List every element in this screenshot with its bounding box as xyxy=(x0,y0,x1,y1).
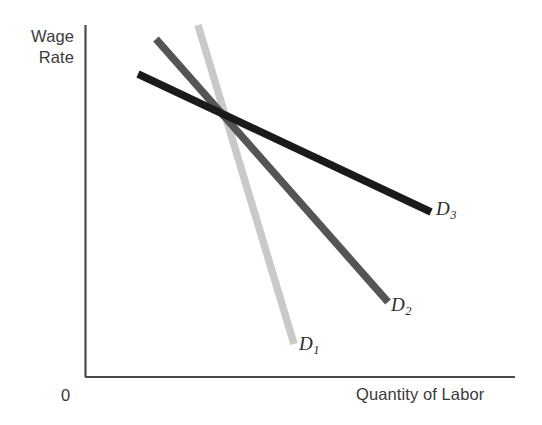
demand-curves-group xyxy=(138,25,431,344)
y-axis-title-line-1: Wage xyxy=(8,26,74,47)
curve-label-d2-subscript: 2 xyxy=(405,304,412,318)
curve-label-d1-subscript: 1 xyxy=(313,343,320,357)
y-axis-title: Wage Rate xyxy=(8,26,74,68)
demand-curve-d3 xyxy=(138,74,431,212)
curve-label-d2: D2 xyxy=(391,295,411,318)
chart-figure: Wage Rate Quantity of Labor 0 D1 D2 D3 xyxy=(0,0,542,425)
curve-label-d3-letter: D xyxy=(436,198,450,219)
chart-plot-area xyxy=(0,0,542,425)
curve-label-d1-letter: D xyxy=(299,333,313,354)
curve-label-d2-letter: D xyxy=(391,294,405,315)
x-axis-title: Quantity of Labor xyxy=(356,385,484,405)
curve-label-d1: D1 xyxy=(299,334,319,357)
curve-label-d3: D3 xyxy=(436,199,456,222)
origin-label: 0 xyxy=(61,386,70,405)
curve-label-d3-subscript: 3 xyxy=(450,208,457,222)
y-axis-title-line-2: Rate xyxy=(8,47,74,68)
